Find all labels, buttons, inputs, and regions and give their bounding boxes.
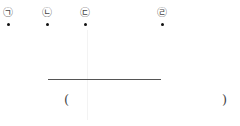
marker-rieul: ㉣: [155, 7, 169, 26]
marker-digeut: ㉢: [78, 7, 92, 26]
dot-icon: [84, 23, 87, 26]
answer-underline: [48, 79, 161, 80]
marker-nieun: ㉡: [40, 7, 54, 26]
scan-artifact-line: [87, 30, 88, 120]
open-paren: (: [64, 92, 69, 107]
marker-label: ㉢: [78, 7, 92, 19]
close-paren: ): [222, 92, 227, 107]
dot-icon: [7, 23, 10, 26]
marker-label: ㉠: [1, 7, 15, 19]
dot-icon: [46, 23, 49, 26]
dot-icon: [161, 23, 164, 26]
marker-giyeok: ㉠: [1, 7, 15, 26]
marker-label: ㉡: [40, 7, 54, 19]
marker-label: ㉣: [155, 7, 169, 19]
